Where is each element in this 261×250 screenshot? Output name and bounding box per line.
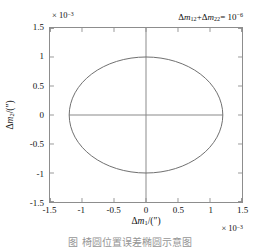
plot-canvas (50, 28, 242, 202)
x-tick-label: -1 (78, 206, 86, 215)
figure-container: × 10−3 Δm12+Δm22= 10−6 (0, 0, 261, 250)
y-axis-ticks (50, 28, 54, 201)
plot-area (49, 27, 243, 203)
x-axis-multiplier: × 10−3 (221, 224, 243, 233)
y-tick-label: -0.5 (18, 140, 44, 149)
plot-title-annotation: Δm12+Δm22= 10−6 (178, 12, 243, 22)
x-tick-label: 1.5 (237, 206, 248, 215)
y-axis-label: Δm2/(″) (6, 100, 16, 129)
y-tick-label: 1.5 (18, 23, 44, 32)
y-axis-ticks-right (238, 28, 242, 201)
x-axis-label: Δm1/(″) (131, 217, 160, 227)
y-tick-label: -1 (18, 169, 44, 178)
x-tick-label: 0.5 (173, 206, 184, 215)
x-tick-label: 0 (144, 206, 149, 215)
y-tick-label: 0.5 (18, 81, 44, 90)
x-tick-label: 1 (208, 206, 213, 215)
x-tick-label: -1.5 (42, 206, 56, 215)
figure-caption: 图 椅圆位置误差椭圆示意图 (68, 238, 191, 248)
y-tick-label: 1 (18, 52, 44, 61)
y-tick-label: 0 (18, 111, 44, 120)
x-tick-label: -0.5 (107, 206, 121, 215)
y-axis-multiplier: × 10−3 (52, 11, 74, 20)
y-tick-label: -1.5 (18, 199, 44, 208)
